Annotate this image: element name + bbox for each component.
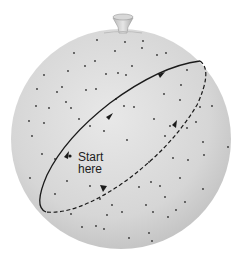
start-label-line2: here — [78, 162, 102, 176]
sphere — [11, 29, 231, 249]
start-point — [68, 154, 71, 157]
celestial-sphere-diagram: Start here — [0, 0, 241, 257]
